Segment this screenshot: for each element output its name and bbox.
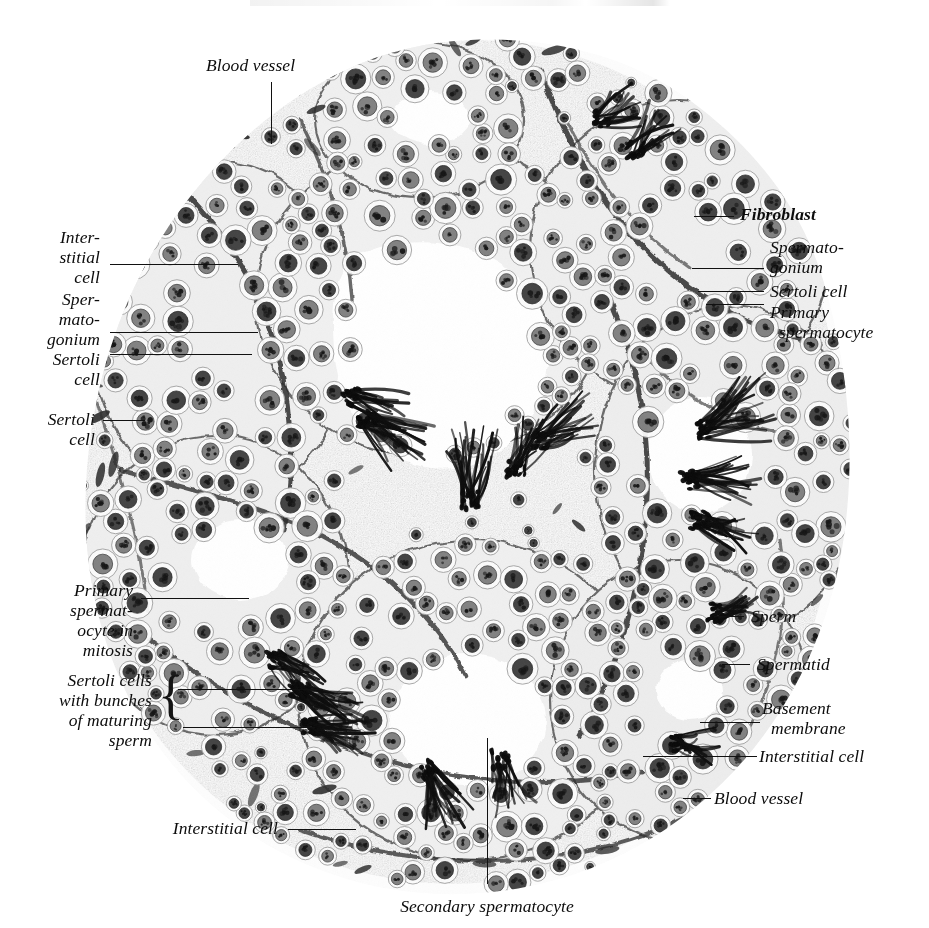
- leader-secondary-spermatocyte: [487, 738, 488, 884]
- leader-spermatid: [722, 664, 750, 665]
- label-spermatid: Spermatid: [757, 655, 830, 675]
- leader-spermatogonium-right: [692, 268, 764, 269]
- leader-spermatogonium-left: [110, 332, 258, 333]
- leader-sertoli-cell-right: [698, 291, 764, 292]
- leader-blood-vessel-top: [271, 82, 272, 144]
- label-primary-spermatocyte-mitosis: Primary spermat- ocyte in mitosis: [0, 581, 133, 661]
- label-blood-vessel-top: Blood vessel: [206, 56, 295, 76]
- leader-sertoli-bunches-2: [183, 727, 315, 728]
- label-sertoli-cell-left-2: Sertoli cell: [0, 410, 95, 450]
- label-sertoli-cells-bunches: Sertoli cells with bunches of maturing s…: [0, 671, 152, 751]
- leader-interstitial-cell-left: [110, 264, 238, 265]
- leader-sertoli-cell-left-1: [110, 354, 252, 355]
- label-spermatogonium-left: Sper- mato- gonium: [0, 290, 100, 350]
- label-interstitial-cell-left: Inter- stitial cell: [0, 228, 100, 288]
- label-interstitial-cell-bottom-left: Interstitial cell: [0, 819, 278, 839]
- leader-blood-vessel-bottom-right: [683, 798, 711, 799]
- histology-plate: { Blood vessel Inter- stitial cell Sper-…: [0, 0, 929, 928]
- leader-fibroblast: [694, 216, 734, 217]
- leader-interstitial-cell-right: [643, 756, 757, 757]
- label-secondary-spermatocyte: Secondary spermatocyte: [337, 897, 637, 917]
- label-spermatogonium-right: Spermato- gonium: [770, 238, 844, 278]
- label-sperm: Sperm: [751, 607, 796, 627]
- leader-primary-spermatocyte-right: [706, 304, 764, 305]
- leader-sperm: [714, 616, 744, 617]
- label-basement-membrane: Basement membrane: [762, 699, 846, 739]
- leader-sertoli-bunches-1: [178, 689, 323, 690]
- label-primary-spermatocyte-right: Primary spermatocyte: [770, 303, 873, 343]
- leader-basement-membrane: [700, 722, 760, 723]
- label-sertoli-cell-right: Sertoli cell: [770, 282, 848, 302]
- label-interstitial-cell-right: Interstitial cell: [759, 747, 864, 767]
- leader-primary-spermatocyte-mitosis: [141, 598, 249, 599]
- label-blood-vessel-bottom-right: Blood vessel: [714, 789, 803, 809]
- brace-sertoli-bunches: {: [158, 668, 184, 722]
- leader-sertoli-cell-left-2: [103, 420, 145, 421]
- label-fibroblast: Fibroblast: [740, 205, 816, 225]
- leader-interstitial-cell-bottom-left: [288, 829, 356, 830]
- label-sertoli-cell-left-1: Sertoli cell: [0, 350, 100, 390]
